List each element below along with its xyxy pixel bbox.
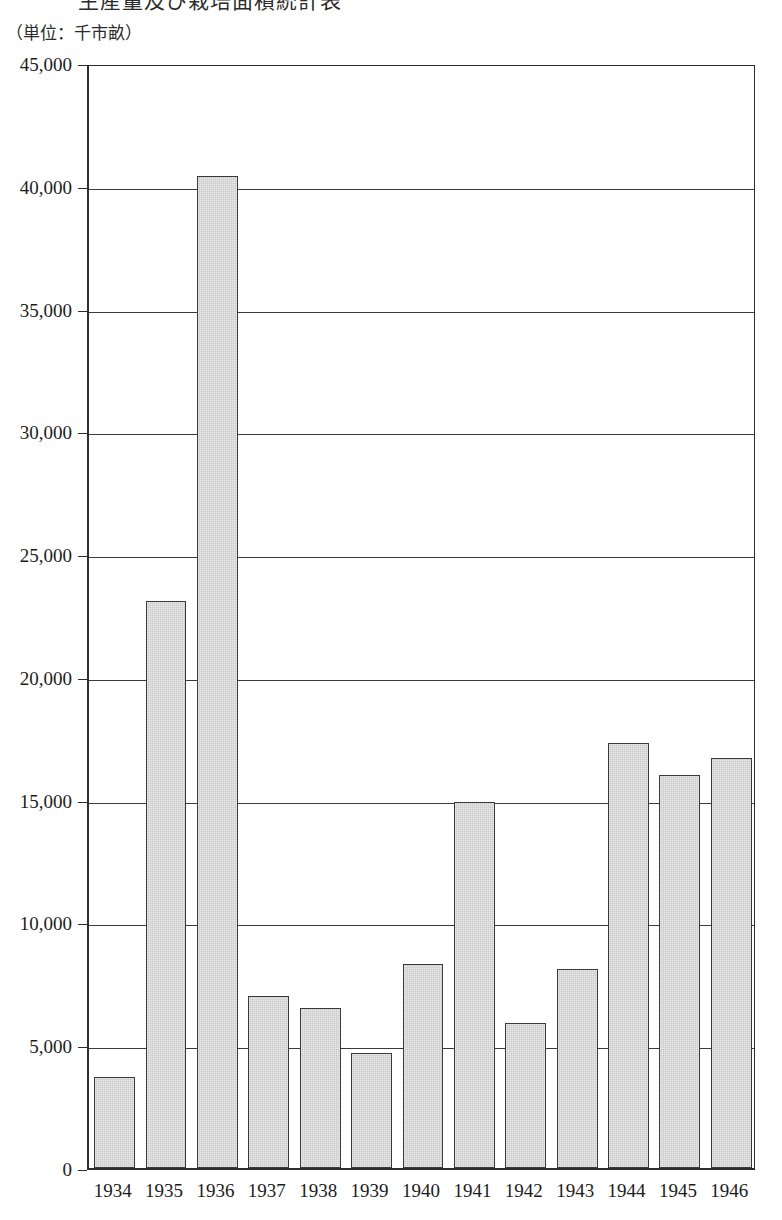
y-axis-tick-label: 35,000 <box>0 301 72 320</box>
bar-1939 <box>351 1053 392 1168</box>
gridline <box>89 189 754 190</box>
y-axis-tick-mark <box>78 188 87 189</box>
x-axis-tick-label-1940: 1940 <box>395 1181 446 1201</box>
bar-1945 <box>659 775 700 1168</box>
y-axis-tick-label: 45,000 <box>0 55 72 74</box>
x-axis-tick-label-1938: 1938 <box>293 1181 344 1201</box>
y-axis-tick-label: 15,000 <box>0 792 72 811</box>
y-axis-tick-mark <box>78 1170 87 1171</box>
y-axis-tick-label: 10,000 <box>0 914 72 933</box>
x-axis-tick-label-1937: 1937 <box>241 1181 292 1201</box>
x-axis-tick-label-1941: 1941 <box>447 1181 498 1201</box>
y-axis-tick-label: 40,000 <box>0 178 72 197</box>
bar-chart: 45,00040,00035,00030,00025,00020,00015,0… <box>0 0 782 1220</box>
x-axis-tick-label-1935: 1935 <box>138 1181 189 1201</box>
y-axis-tick-mark <box>78 311 87 312</box>
bar-1941 <box>454 802 495 1168</box>
bar-1940 <box>403 964 444 1168</box>
y-axis-tick-label: 25,000 <box>0 546 72 565</box>
gridline <box>89 680 754 681</box>
bar-1935 <box>146 601 187 1168</box>
y-axis-tick-mark <box>78 679 87 680</box>
y-axis-tick-label: 0 <box>0 1160 72 1179</box>
plot-area <box>87 65 755 1170</box>
bar-1938 <box>300 1008 341 1168</box>
bar-1943 <box>557 969 598 1168</box>
x-axis-tick-label-1939: 1939 <box>344 1181 395 1201</box>
y-axis-tick-mark <box>78 802 87 803</box>
y-axis-tick-label: 30,000 <box>0 423 72 442</box>
y-axis-tick-label: 5,000 <box>0 1037 72 1056</box>
bar-1937 <box>248 996 289 1168</box>
gridline <box>89 925 754 926</box>
y-axis-tick-mark <box>78 924 87 925</box>
x-axis-tick-label-1936: 1936 <box>190 1181 241 1201</box>
gridline <box>89 557 754 558</box>
x-axis-tick-label-1934: 1934 <box>87 1181 138 1201</box>
x-axis-tick-label-1942: 1942 <box>498 1181 549 1201</box>
y-axis-tick-mark <box>78 433 87 434</box>
bar-1942 <box>505 1023 546 1168</box>
x-axis-tick-label-1945: 1945 <box>652 1181 703 1201</box>
x-axis-tick-label-1946: 1946 <box>704 1181 755 1201</box>
y-axis-tick-mark <box>78 556 87 557</box>
gridline <box>89 803 754 804</box>
y-axis-tick-mark <box>78 1047 87 1048</box>
gridline <box>89 434 754 435</box>
bar-1934 <box>94 1077 135 1168</box>
y-axis-tick-mark <box>78 65 87 66</box>
bar-1936 <box>197 176 238 1168</box>
x-axis-tick-label-1943: 1943 <box>549 1181 600 1201</box>
bar-1946 <box>711 758 752 1168</box>
gridline <box>89 312 754 313</box>
bar-1944 <box>608 743 649 1168</box>
y-axis-tick-label: 20,000 <box>0 669 72 688</box>
x-axis-tick-label-1944: 1944 <box>601 1181 652 1201</box>
